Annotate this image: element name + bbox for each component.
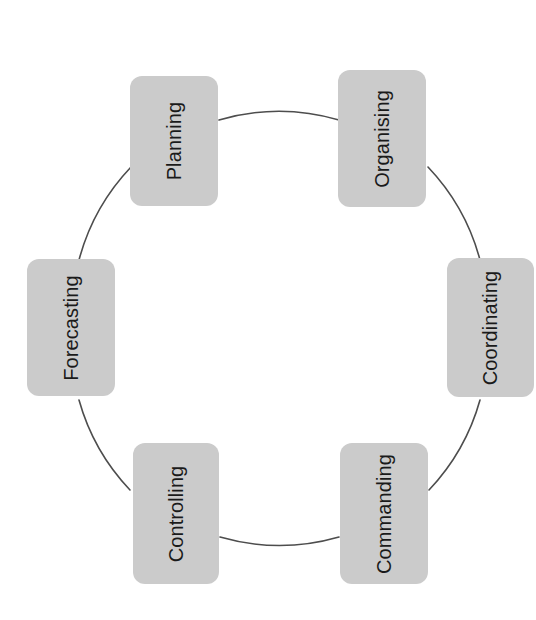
- node-organising[interactable]: Organising: [338, 70, 426, 207]
- node-forecasting-label: Forecasting: [61, 275, 81, 381]
- node-planning[interactable]: Planning: [130, 76, 218, 206]
- node-coordinating[interactable]: Coordinating: [447, 258, 534, 397]
- arc-coordinating-commanding: [429, 400, 480, 490]
- arc-organising-coordinating: [428, 167, 480, 260]
- arc-controlling-forecasting: [79, 400, 130, 490]
- arc-commanding-controlling: [220, 537, 339, 545]
- node-organising-label: Organising: [372, 90, 392, 188]
- cycle-diagram: Planning Organising Coordinating Command…: [0, 0, 536, 620]
- node-controlling[interactable]: Controlling: [133, 443, 219, 584]
- node-forecasting[interactable]: Forecasting: [27, 259, 115, 396]
- node-controlling-label: Controlling: [166, 465, 186, 562]
- node-commanding[interactable]: Commanding: [340, 443, 428, 584]
- arc-forecasting-planning: [79, 167, 131, 260]
- node-commanding-label: Commanding: [374, 454, 394, 574]
- node-planning-label: Planning: [164, 102, 184, 181]
- node-coordinating-label: Coordinating: [481, 270, 501, 385]
- arc-planning-organising: [219, 111, 339, 120]
